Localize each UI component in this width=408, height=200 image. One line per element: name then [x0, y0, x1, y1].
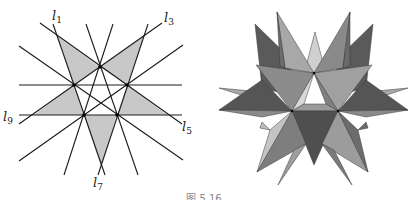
vertex-dot — [98, 65, 102, 69]
line-label: l5 — [182, 119, 192, 136]
vertex-dot — [82, 113, 86, 117]
line-label: l1 — [52, 8, 62, 25]
vertex-dot — [291, 110, 293, 112]
figure-caption: 图 5.16 — [0, 190, 408, 200]
shaded-triangle — [84, 115, 117, 167]
vertex-dot — [313, 72, 315, 74]
polyhedron-face — [358, 122, 368, 130]
vertex-dot — [337, 110, 339, 112]
shaded-triangle — [117, 85, 167, 115]
polyhedron-face — [260, 122, 270, 130]
figure-canvas: l1l3l5l7l9 — [0, 0, 408, 200]
polyhedron-face — [219, 110, 292, 117]
vertex-dot — [115, 113, 119, 117]
line-label: l3 — [164, 10, 174, 27]
shaded-triangle — [34, 85, 84, 115]
line-arrangement-diagram: l1l3l5l7l9 — [3, 8, 192, 192]
great-stellated-dodecahedron — [219, 12, 408, 185]
vertex-dot — [125, 83, 129, 87]
polyhedron-face — [338, 110, 408, 117]
vertex-dot — [72, 83, 76, 87]
line-label: l9 — [3, 109, 13, 126]
